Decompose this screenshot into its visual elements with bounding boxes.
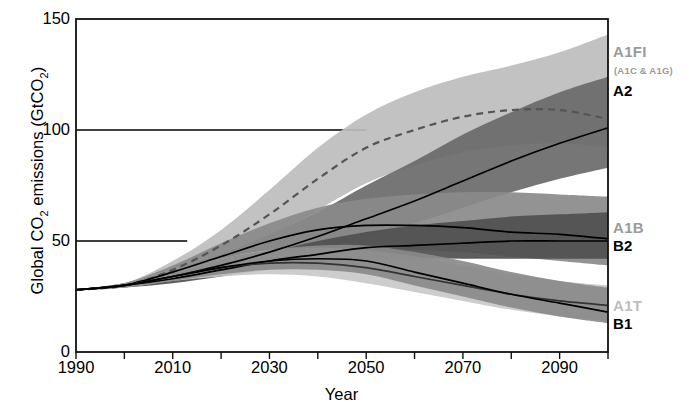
legend-label-b1: B1	[613, 316, 633, 332]
legend-label-b2: B2	[613, 238, 633, 254]
series-group	[76, 35, 608, 324]
emissions-scenarios-figure: Global CO2 emissions (GtCO2) 050100150 1…	[0, 0, 689, 417]
chart-plot-area	[0, 0, 689, 417]
legend-label-a1ca1g: (A1C & A1G)	[614, 66, 673, 76]
legend-label-a1t: A1T	[613, 298, 642, 314]
legend-label-a1b: A1B	[613, 220, 644, 236]
legend-label-a2: A2	[613, 83, 633, 99]
legend-label-a1fi: A1FI	[613, 44, 647, 60]
